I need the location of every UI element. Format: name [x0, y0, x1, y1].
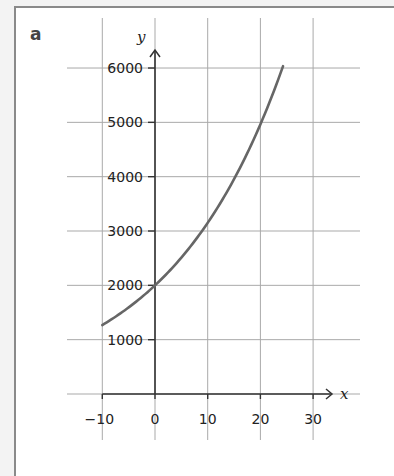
y-tick-label: 4000 — [107, 169, 143, 185]
y-tick-label: 5000 — [107, 114, 143, 130]
x-tick-label: 30 — [304, 411, 322, 427]
x-axis-label: x — [340, 385, 349, 403]
x-tick-label: −10 — [85, 411, 115, 427]
x-tick-label: 20 — [251, 411, 269, 427]
y-tick-label: 2000 — [107, 277, 143, 293]
y-axis-label: y — [136, 28, 146, 46]
x-tick-label: 10 — [199, 411, 217, 427]
x-tick-label: 0 — [151, 411, 160, 427]
y-tick-label: 3000 — [107, 223, 143, 239]
y-tick-label: 6000 — [107, 60, 143, 76]
y-tick-label: 1000 — [107, 332, 143, 348]
